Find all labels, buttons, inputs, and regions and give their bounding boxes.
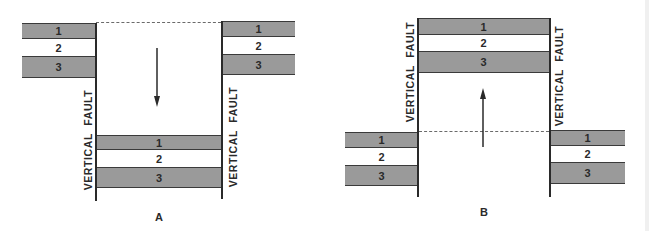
page-edge-shade: [645, 0, 649, 231]
panel-b-right-fault-line: [549, 18, 551, 197]
panel-a-center-layer-3: 3: [96, 167, 222, 188]
panel-b-left-fault-line: [417, 18, 419, 197]
panel-b-right-fault-label: VERTICAL FAULT: [553, 26, 565, 127]
panel-a-left-layer-1: 1: [22, 23, 95, 39]
panel-a-label: A: [155, 211, 163, 223]
panel-b-right-layer-2: 2: [550, 146, 625, 162]
panel-a-right-layer-1: 1: [222, 21, 295, 37]
panel-b-center-layer-3: 3: [418, 51, 549, 73]
panel-a-left-fault-label: VERTICAL FAULT: [82, 90, 94, 191]
panel-b-left-layer-3: 3: [345, 165, 418, 186]
up-arrow-icon: [478, 88, 488, 148]
panel-a-right-layer-3: 3: [222, 54, 295, 75]
panel-a-left-fault-line: [95, 23, 97, 201]
panel-a-left-layer-2: 2: [22, 39, 95, 56]
panel-b-label: B: [480, 206, 488, 218]
panel-b-left-fault-label: VERTICAL FAULT: [404, 22, 416, 123]
panel-b-left-layer-1: 1: [345, 132, 418, 148]
panel-b-right-layer-3: 3: [550, 162, 625, 184]
panel-a-right-fault-label: VERTICAL FAULT: [227, 87, 239, 188]
panel-a-right-fault-line: [221, 21, 223, 199]
panel-b-left-layer-2: 2: [345, 148, 418, 165]
panel-b-right-layer-1: 1: [550, 130, 625, 146]
panel-a-center-layer-2: 2: [96, 150, 222, 167]
panel-a-right-layer-2: 2: [222, 37, 295, 54]
panel-b-center-layer-1: 1: [418, 18, 549, 35]
down-arrow-icon: [152, 48, 162, 108]
panel-b-center-layer-2: 2: [418, 35, 549, 51]
panel-a-center-layer-1: 1: [96, 135, 222, 150]
panel-a-left-layer-3: 3: [22, 56, 95, 78]
panel-a-original-surface-dashed-line: [96, 22, 221, 23]
